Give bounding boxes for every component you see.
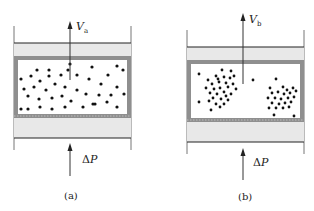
caption-a: (a)	[64, 190, 78, 201]
pressure-label-b: ΔP	[253, 156, 268, 169]
panel-b	[187, 13, 304, 180]
arrow-up-icon	[241, 13, 246, 21]
bottom-plate-band	[187, 122, 304, 142]
top-plate-band	[14, 43, 131, 56]
bottom-plate-band	[14, 118, 131, 138]
caption-b: (b)	[238, 191, 252, 202]
arrow-up-icon	[68, 21, 73, 29]
pressure-label-a: ΔP	[82, 153, 97, 166]
chamber-interior	[191, 64, 300, 118]
arrow-up-icon	[241, 148, 246, 156]
diagram-canvas	[0, 0, 314, 211]
velocity-label-b: Vb	[249, 13, 261, 28]
top-plate-band	[187, 47, 304, 60]
panel-a	[14, 21, 131, 176]
arrow-up-icon	[68, 143, 73, 151]
velocity-label-a: Va	[76, 20, 88, 35]
